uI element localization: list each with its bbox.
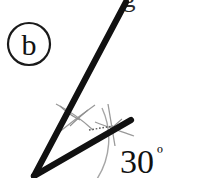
angle-diagram: g b 30 º xyxy=(0,0,200,178)
figure-canvas: g b 30 º xyxy=(0,0,200,178)
background xyxy=(0,0,200,178)
angle-value-label: 30 xyxy=(120,143,154,178)
part-label-b: b xyxy=(22,28,37,61)
degree-symbol-icon: º xyxy=(157,143,163,164)
